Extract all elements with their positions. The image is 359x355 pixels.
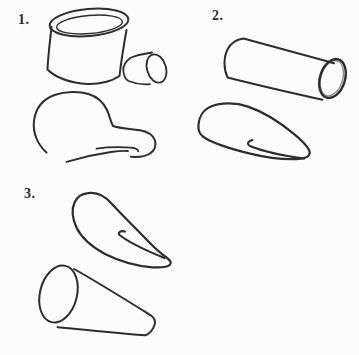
sketch-step-1 bbox=[34, 6, 170, 162]
step-1-label: 1. bbox=[18, 13, 30, 27]
small-cylinder-face bbox=[143, 52, 169, 85]
step-2-label: 2. bbox=[212, 9, 224, 23]
large-cylinder-rim-inner bbox=[56, 13, 123, 37]
blob-duck-mouth-line bbox=[67, 151, 129, 162]
cone-cylinder-body bbox=[58, 269, 155, 335]
sketch-drawing bbox=[0, 0, 359, 355]
tube-cylinder-body bbox=[225, 39, 335, 100]
sketch-step-3 bbox=[34, 193, 171, 335]
blob-loaf-outline bbox=[198, 103, 309, 159]
sketch-step-2 bbox=[198, 39, 350, 160]
blob-duck-outline bbox=[34, 92, 156, 157]
step-3-label: 3. bbox=[24, 187, 36, 201]
sketch-page: 1. 2. 3. bbox=[0, 0, 359, 355]
